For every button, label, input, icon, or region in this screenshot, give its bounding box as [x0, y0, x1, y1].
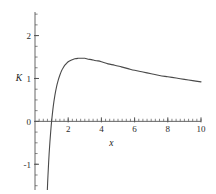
plot-canvas: 246810 -1012 x K [0, 0, 216, 194]
x-tick-label: 6 [132, 124, 137, 134]
x-tick-label: 8 [166, 124, 171, 134]
x-axis-title: x [108, 138, 114, 148]
axes-group [35, 12, 201, 190]
y-tick-label: 1 [27, 74, 32, 84]
y-tick-label: 2 [27, 31, 32, 41]
y-tick-label: -1 [24, 160, 32, 170]
x-tick-label: 4 [99, 124, 104, 134]
y-tick-labels: -1012 [24, 31, 32, 170]
x-tick-label: 2 [66, 124, 71, 134]
y-axis-title: K [15, 73, 23, 83]
x-tick-labels: 246810 [66, 124, 206, 134]
x-tick-label: 10 [197, 124, 207, 134]
chart-figure: 246810 -1012 x K [0, 0, 216, 194]
y-tick-label: 0 [27, 117, 32, 127]
